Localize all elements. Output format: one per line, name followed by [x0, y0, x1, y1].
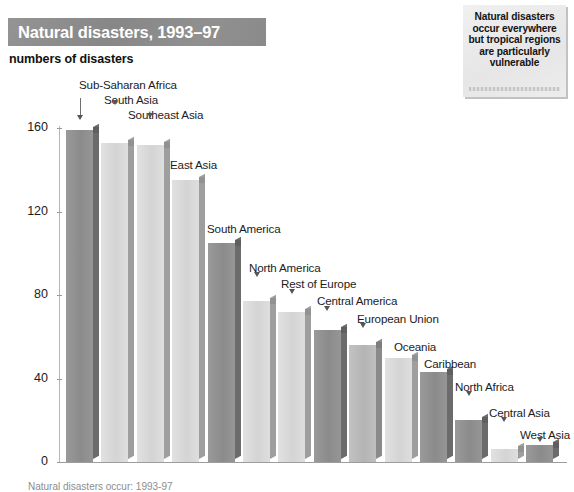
- bar-top-3d: [341, 327, 347, 333]
- bar-label-east-asia: East Asia: [170, 158, 217, 171]
- bar-label-sub-saharan-africa: Sub-Saharan Africa: [79, 78, 177, 91]
- bar-side-3d: [305, 305, 311, 458]
- bar-label-arrow: [501, 417, 507, 422]
- bar-side-3d: [199, 174, 205, 459]
- bar: [172, 180, 199, 462]
- bar-side-3d: [412, 351, 418, 459]
- bar-top-3d: [128, 140, 134, 146]
- bar: [526, 445, 553, 462]
- bar-label-arrow: [112, 100, 118, 105]
- bar-label-arrow: [77, 115, 83, 120]
- y-axis-tick-label: 120: [14, 204, 48, 218]
- bar: [385, 358, 412, 462]
- bar-label-arrow: [466, 391, 472, 396]
- bar: [420, 372, 447, 462]
- bar-side-3d: [341, 324, 347, 459]
- bar-label-arrow: [537, 437, 543, 442]
- bar-label-arrow: [324, 306, 330, 311]
- bar-label-central-asia: Central Asia: [489, 406, 550, 419]
- bar-top-3d: [447, 369, 453, 375]
- bar-top-3d: [305, 309, 311, 315]
- bar-top-3d: [199, 177, 205, 183]
- x-axis-line: [59, 462, 567, 463]
- y-axis-tick-mark: [57, 212, 62, 213]
- bar: [137, 145, 164, 462]
- bar-side-3d: [270, 295, 276, 459]
- bar: [243, 301, 270, 462]
- bar-label-arrow: [360, 323, 366, 328]
- y-axis-tick-label: 80: [14, 287, 48, 301]
- bar-label-arrow: [289, 289, 295, 294]
- y-axis-tick-mark: [57, 128, 62, 129]
- bar-face: [455, 420, 482, 462]
- bar-top-3d: [482, 417, 488, 423]
- bar-side-3d: [128, 136, 134, 459]
- bar-face: [491, 449, 518, 462]
- bar-top-3d: [412, 355, 418, 361]
- bar: [349, 345, 376, 462]
- bar-top-3d: [235, 240, 241, 246]
- bar-label-south-america: South America: [207, 222, 280, 235]
- bar-side-3d: [447, 366, 453, 459]
- bar-label-oceania: Oceania: [394, 340, 436, 353]
- bar-face: [526, 445, 553, 462]
- bar-face: [243, 301, 270, 462]
- bar: [455, 420, 482, 462]
- y-axis-tick-label: 40: [14, 371, 48, 385]
- bar: [314, 330, 341, 462]
- bar: [491, 449, 518, 462]
- chart-plot-area: 04080120160 Sub-Saharan AfricaSouth Asia…: [0, 0, 574, 492]
- bar-label-european-union: European Union: [357, 312, 439, 325]
- bar-face: [278, 312, 305, 462]
- bar-face: [385, 358, 412, 462]
- y-axis-tick-label: 0: [14, 454, 48, 468]
- bar: [66, 130, 93, 462]
- bar-side-3d: [93, 124, 99, 459]
- bar-face: [349, 345, 376, 462]
- bar-label-arrow: [147, 113, 153, 118]
- bar-top-3d: [270, 298, 276, 304]
- bar-top-3d: [553, 442, 559, 448]
- bar-side-3d: [235, 237, 241, 459]
- y-axis-tick-label: 160: [14, 120, 48, 134]
- bar-top-3d: [518, 446, 524, 452]
- bar-face: [66, 130, 93, 462]
- footer-caption: Natural disasters occur: 1993-97: [28, 481, 568, 492]
- bar: [278, 312, 305, 462]
- bar-side-3d: [376, 339, 382, 459]
- bar-label-north-africa: North Africa: [455, 380, 514, 393]
- bar-label-west-asia: West Asia: [520, 428, 570, 441]
- bar-top-3d: [93, 127, 99, 133]
- bar-face: [172, 180, 199, 462]
- bar-top-3d: [376, 342, 382, 348]
- bar: [208, 243, 235, 462]
- bar-label-caribbean: Caribbean: [424, 357, 476, 370]
- y-axis-tick-mark: [57, 379, 62, 380]
- y-axis-tick-mark: [57, 462, 62, 463]
- bar-face: [101, 143, 128, 462]
- y-axis-tick-mark: [57, 295, 62, 296]
- bar-label-southeast-asia: Southeast Asia: [128, 108, 203, 121]
- bar-face: [314, 330, 341, 462]
- bar-face: [208, 243, 235, 462]
- bar: [101, 143, 128, 462]
- bar-label-arrow: [254, 272, 260, 277]
- bar-face: [420, 372, 447, 462]
- bar-side-3d: [164, 138, 170, 458]
- bar-label-leader-line: [80, 98, 81, 115]
- bar-top-3d: [164, 142, 170, 148]
- bar-face: [137, 145, 164, 462]
